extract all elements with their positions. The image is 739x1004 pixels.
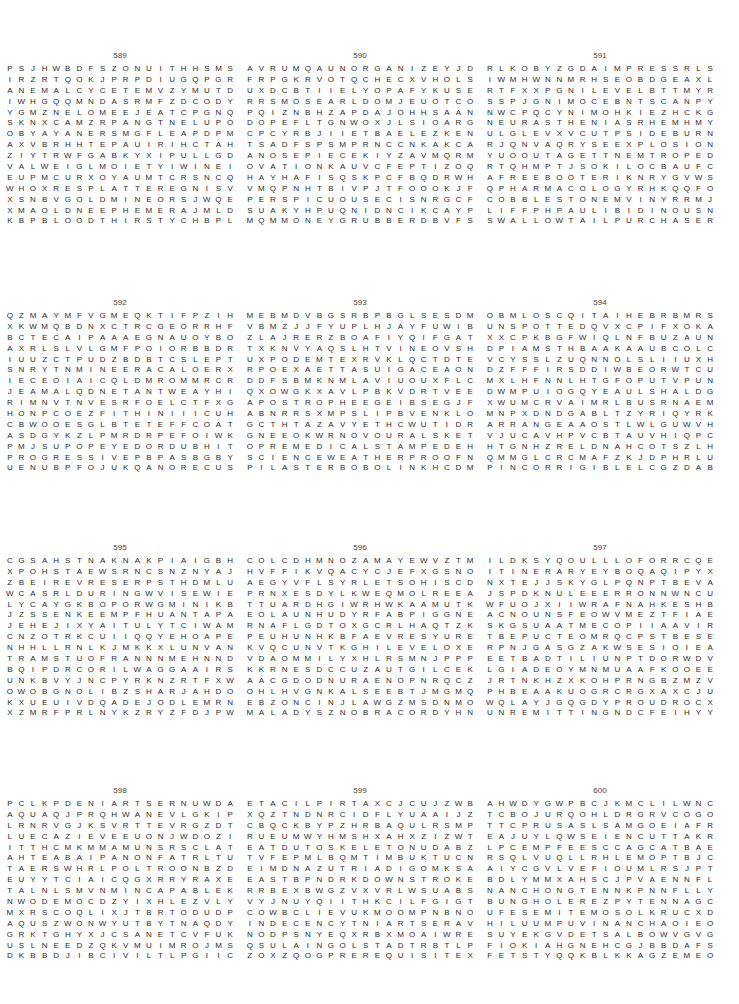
grid-letter: R: [256, 75, 268, 86]
grid-letter: Z: [441, 162, 453, 173]
grid-letter: Q: [314, 897, 326, 908]
grid-letter: Z: [27, 632, 39, 643]
grid-letter: R: [201, 376, 213, 387]
grid-row: SWALLOWTAILPURCHASER: [484, 216, 716, 227]
grid-letter: E: [600, 97, 612, 108]
grid-letter: L: [178, 698, 190, 709]
grid-letter: R: [190, 875, 202, 886]
grid-letter: N: [143, 810, 155, 821]
grid-letter: B: [372, 216, 384, 227]
grid-letter: I: [372, 853, 384, 864]
grid-letter: V: [244, 322, 256, 333]
grid-letter: G: [542, 930, 554, 941]
grid-letter: S: [279, 151, 291, 162]
grid-letter: R: [588, 853, 600, 864]
grid-letter: J: [693, 853, 705, 864]
grid-letter: C: [279, 799, 291, 810]
grid-letter: G: [4, 930, 16, 941]
grid-letter: C: [588, 431, 600, 442]
grid-letter: K: [224, 886, 236, 897]
grid-letter: M: [97, 108, 109, 119]
grid-letter: B: [577, 799, 589, 810]
grid-letter: R: [348, 578, 360, 589]
grid-letter: T: [372, 941, 384, 952]
grid-letter: W: [441, 930, 453, 941]
grid-letter: X: [16, 140, 28, 151]
grid-letter: H: [623, 442, 635, 453]
grid-letter: D: [267, 930, 279, 941]
grid-letter: N: [143, 654, 155, 665]
grid-letter: Y: [681, 409, 693, 420]
grid-letter: N: [143, 853, 155, 864]
grid-row: PROGRESSIVEPBPASBGBY: [4, 453, 236, 464]
grid-letter: B: [302, 129, 314, 140]
grid-letter: N: [302, 643, 314, 654]
grid-letter: R: [213, 698, 225, 709]
grid-letter: X: [693, 908, 705, 919]
grid-letter: V: [681, 621, 693, 632]
grid-letter: P: [224, 810, 236, 821]
grid-letter: I: [646, 621, 658, 632]
grid-letter: G: [507, 442, 519, 453]
grid-letter: V: [302, 311, 314, 322]
grid-letter: C: [464, 376, 476, 387]
grid-row: MNPXDNDGABLTZYRIQYRK: [484, 409, 716, 420]
grid-letter: A: [337, 162, 349, 173]
grid-letter: M: [530, 875, 542, 886]
grid-letter: I: [600, 64, 612, 75]
grid-letter: Z: [267, 810, 279, 821]
grid-letter: P: [244, 195, 256, 206]
grid-letter: N: [565, 108, 577, 119]
grid-letter: Z: [554, 64, 566, 75]
grid-letter: A: [120, 118, 132, 129]
grid-letter: N: [670, 398, 682, 409]
grid-letter: O: [464, 97, 476, 108]
grid-letter: T: [224, 420, 236, 431]
grid-row: INDECENCYTNIARTSERAV: [244, 919, 476, 930]
grid-letter: O: [577, 184, 589, 195]
grid-letter: Y: [693, 567, 705, 578]
grid-letter: B: [201, 864, 213, 875]
grid-letter: W: [496, 75, 508, 86]
grid-letter: P: [372, 311, 384, 322]
grid-letter: Y: [27, 875, 39, 886]
grid-letter: A: [496, 886, 508, 897]
grid-letter: V: [155, 589, 167, 600]
grid-letter: E: [577, 118, 589, 129]
grid-letter: A: [279, 708, 291, 719]
grid-letter: M: [39, 654, 51, 665]
grid-letter: B: [337, 632, 349, 643]
grid-letter: H: [224, 140, 236, 151]
grid-letter: S: [39, 610, 51, 621]
grid-letter: N: [542, 409, 554, 420]
grid-letter: Q: [16, 919, 28, 930]
grid-letter: W: [166, 387, 178, 398]
grid-letter: W: [178, 832, 190, 843]
grid-letter: U: [290, 897, 302, 908]
grid-letter: E: [507, 908, 519, 919]
grid-letter: J: [704, 195, 716, 206]
grid-letter: G: [670, 173, 682, 184]
grid-letter: S: [554, 610, 566, 621]
grid-letter: R: [670, 698, 682, 709]
grid-letter: M: [681, 951, 693, 962]
grid-letter: O: [577, 810, 589, 821]
grid-letter: R: [155, 442, 167, 453]
grid-letter: H: [314, 108, 326, 119]
grid-letter: V: [406, 409, 418, 420]
grid-letter: O: [507, 151, 519, 162]
grid-row: DDFSBMKNMLAVIUOUXFLC: [244, 376, 476, 387]
grid-letter: U: [395, 951, 407, 962]
grid-row: PCLKPDENIARTSERNUWDA: [4, 799, 236, 810]
grid-letter: X: [484, 333, 496, 344]
grid-letter: D: [213, 344, 225, 355]
grid-letter: V: [74, 698, 86, 709]
grid-row: RIMNVTNVESRFOELCTFXG: [4, 398, 236, 409]
grid-letter: M: [484, 376, 496, 387]
grid-letter: M: [132, 941, 144, 952]
grid-letter: R: [155, 376, 167, 387]
grid-letter: R: [337, 97, 349, 108]
grid-letter: I: [166, 140, 178, 151]
grid-letter: I: [325, 799, 337, 810]
grid-letter: L: [85, 162, 97, 173]
